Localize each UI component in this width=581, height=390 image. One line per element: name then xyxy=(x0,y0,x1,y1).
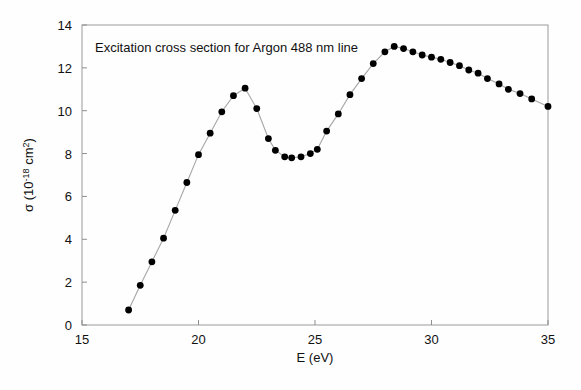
data-point xyxy=(528,96,535,103)
x-tick-label: 35 xyxy=(541,332,555,347)
data-point xyxy=(218,108,225,115)
data-point xyxy=(358,75,365,82)
data-point xyxy=(517,90,524,97)
x-axis-tick-labels: 1520253035 xyxy=(75,332,555,347)
data-point xyxy=(323,128,330,135)
data-point xyxy=(195,151,202,158)
y-axis-title: σ (10-18 cm2) xyxy=(21,138,36,212)
data-point xyxy=(545,103,552,110)
data-point xyxy=(125,307,132,314)
data-point xyxy=(484,75,491,82)
data-point xyxy=(419,52,426,59)
y-tick-label: 6 xyxy=(65,189,72,204)
data-point xyxy=(281,153,288,160)
data-point xyxy=(137,282,144,289)
data-point xyxy=(160,235,167,242)
data-point xyxy=(391,43,398,50)
data-point xyxy=(314,146,321,153)
y-tick-label: 8 xyxy=(65,147,72,162)
data-point xyxy=(347,91,354,98)
data-point xyxy=(272,147,279,154)
x-tick-label: 20 xyxy=(191,332,205,347)
data-point xyxy=(409,48,416,55)
y-tick-label: 14 xyxy=(58,18,72,33)
chart-figure: 1520253035 02468101214 Excitation cross … xyxy=(0,0,581,390)
data-point xyxy=(253,105,260,112)
data-point xyxy=(230,92,237,99)
y-axis-title-exponent: -18 xyxy=(21,168,31,181)
data-point xyxy=(428,54,435,61)
x-tick-label: 30 xyxy=(424,332,438,347)
y-axis-title-sigma: σ (10 xyxy=(21,181,36,211)
chart-canvas: 1520253035 02468101214 Excitation cross … xyxy=(0,0,581,390)
data-point xyxy=(382,48,389,55)
series-line xyxy=(129,46,548,310)
data-point xyxy=(207,130,214,137)
data-point xyxy=(149,258,156,265)
data-point xyxy=(298,153,305,160)
x-axis-title: E (eV) xyxy=(297,350,334,365)
data-point xyxy=(456,62,463,69)
y-axis-title-close: ) xyxy=(21,138,36,142)
data-point xyxy=(475,70,482,77)
chart-title: Excitation cross section for Argon 488 n… xyxy=(95,40,358,55)
y-tick-label: 4 xyxy=(65,232,72,247)
data-point xyxy=(335,111,342,118)
data-point xyxy=(505,86,512,93)
x-tick-label: 15 xyxy=(75,332,89,347)
x-axis-ticks xyxy=(82,320,548,325)
x-tick-label: 25 xyxy=(308,332,322,347)
data-point xyxy=(465,67,472,74)
y-axis-tick-labels: 02468101214 xyxy=(58,18,72,333)
data-point xyxy=(447,59,454,66)
data-point xyxy=(496,81,503,88)
y-tick-label: 10 xyxy=(58,104,72,119)
y-tick-label: 0 xyxy=(65,318,72,333)
y-axis-ticks xyxy=(82,25,87,325)
data-point xyxy=(172,207,179,214)
y-axis-title-tail: cm xyxy=(21,147,36,168)
data-point xyxy=(288,154,295,161)
y-tick-label: 2 xyxy=(65,275,72,290)
data-point xyxy=(242,85,249,92)
data-point xyxy=(437,56,444,63)
y-axis-title-group: σ (10-18 cm2) xyxy=(21,138,36,212)
data-point xyxy=(370,60,377,67)
y-tick-label: 12 xyxy=(58,61,72,76)
data-point xyxy=(307,150,314,157)
data-point xyxy=(400,45,407,52)
data-point xyxy=(183,179,190,186)
data-point xyxy=(265,135,272,142)
